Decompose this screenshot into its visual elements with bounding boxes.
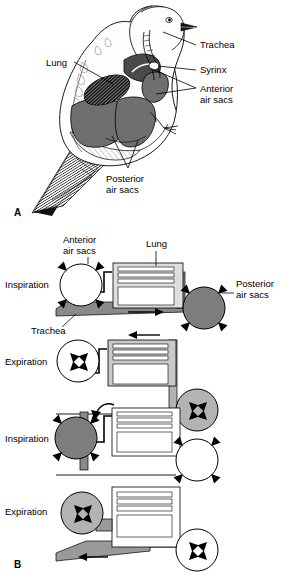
panel-a-letter: A: [14, 207, 21, 218]
step-4-phase-label: Expiration: [5, 506, 47, 517]
step-4-anterior-air-sac: [61, 492, 103, 534]
step-2-posterior-air-sac: [176, 389, 218, 431]
step-1-anterior-air-sac: [57, 261, 104, 308]
label-anterior-air-sacs-a-line2: air sacs: [200, 94, 233, 105]
label-anterior-air-sacs-a-line1: Anterior: [200, 83, 233, 94]
step-4-posterior-air-sac: [176, 529, 218, 571]
step-2-phase-label: Expiration: [5, 356, 47, 367]
label-anterior-air-sacs-b-line2: air sacs: [63, 245, 96, 256]
step-3-anterior-air-sac: [52, 414, 99, 461]
respiration-figure: Lung Trachea Syrinx Anterior air sacs Po…: [0, 0, 292, 575]
step-4-expiration: [56, 487, 218, 571]
step-4-lung: [112, 487, 180, 547]
step-3-posterior-air-sac: [173, 436, 220, 483]
panel-b-letter: B: [14, 559, 21, 570]
syrinx-organ: [149, 62, 159, 70]
step-1-inspiration: [56, 261, 228, 331]
label-anterior-air-sacs-b-line1: Anterior: [63, 234, 96, 245]
step-1-phase-label: Inspiration: [5, 279, 49, 290]
step-3-lung: [112, 408, 180, 456]
label-trachea-a: Trachea: [200, 39, 235, 50]
step-2-lung: [108, 340, 176, 386]
label-posterior-air-sacs-a-line1: Posterior: [106, 173, 144, 184]
step-1-lung: [113, 263, 183, 308]
label-posterior-air-sacs-b-line2: air sacs: [236, 289, 269, 300]
label-lung-a: Lung: [46, 57, 67, 68]
step-2-anterior-air-sac: [57, 340, 99, 382]
label-posterior-air-sacs-a-line2: air sacs: [106, 184, 139, 195]
panel-a-bird-anatomy: Lung Trachea Syrinx Anterior air sacs Po…: [0, 0, 292, 232]
label-syrinx-a: Syrinx: [200, 64, 227, 75]
panel-b-mechanism-diagram: Inspiration Anterior air sacs Lung Poste…: [0, 230, 292, 575]
step-3-phase-label: Inspiration: [5, 433, 49, 444]
label-trachea-b: Trachea: [31, 325, 66, 336]
label-posterior-air-sacs-b-line1: Posterior: [236, 278, 274, 289]
label-lung-b: Lung: [146, 238, 167, 249]
step-1-posterior-air-sac: [180, 284, 227, 331]
step-2-airflow-arrow: [128, 331, 160, 339]
